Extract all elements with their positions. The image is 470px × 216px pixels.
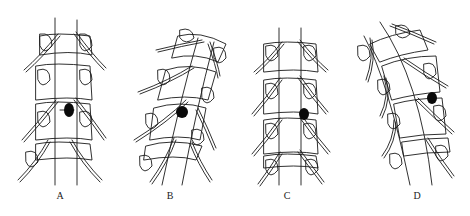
panel-label-b: B: [167, 190, 174, 201]
spine-drawing-a: [0, 0, 120, 190]
spine-drawing-b: [110, 0, 230, 190]
panel-label-c: C: [284, 190, 291, 201]
panel-label-d: D: [413, 190, 420, 201]
lesion-d: [427, 92, 437, 104]
panel-a: [0, 0, 120, 190]
lesion-b: [176, 106, 188, 118]
lesion-a: [64, 103, 74, 117]
panel-label-a: A: [56, 190, 63, 201]
spine-drawing-d: [340, 0, 470, 190]
spine-figure: A B C D: [0, 0, 470, 216]
panel-c: [230, 0, 340, 190]
panel-d: [340, 0, 470, 190]
spine-drawing-c: [230, 0, 340, 190]
lesion-c: [299, 108, 309, 120]
panel-b: [110, 0, 230, 190]
figure-caption: [150, 207, 350, 216]
